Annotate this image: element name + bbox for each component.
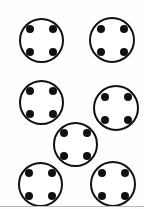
button-hole xyxy=(120,25,128,33)
button-hole xyxy=(121,192,129,200)
button-hole xyxy=(83,129,91,137)
button-hole xyxy=(121,169,129,177)
buttons-illustration xyxy=(0,0,144,209)
button-hole xyxy=(49,110,57,118)
button-middle-left xyxy=(19,80,64,125)
button-hole xyxy=(25,169,33,177)
button-bottom-left xyxy=(18,162,63,207)
button-hole xyxy=(49,87,57,95)
button-hole xyxy=(25,192,33,200)
button-hole xyxy=(101,93,109,101)
button-hole xyxy=(98,169,106,177)
button-hole xyxy=(60,129,68,137)
button-top-left xyxy=(19,18,64,63)
button-hole xyxy=(26,25,34,33)
button-hole xyxy=(124,93,132,101)
bottom-divider-line xyxy=(0,206,144,207)
button-hole xyxy=(26,87,34,95)
button-hole xyxy=(97,48,105,56)
button-hole xyxy=(49,48,57,56)
button-hole xyxy=(26,110,34,118)
button-hole xyxy=(101,116,109,124)
button-hole xyxy=(48,169,56,177)
button-hole xyxy=(83,152,91,160)
button-center xyxy=(53,122,98,167)
button-top-right xyxy=(89,17,135,63)
button-hole xyxy=(48,192,56,200)
button-hole xyxy=(124,116,132,124)
button-hole xyxy=(49,25,57,33)
button-bottom-right xyxy=(90,161,136,207)
button-hole xyxy=(97,25,105,33)
button-hole xyxy=(26,48,34,56)
button-hole xyxy=(98,192,106,200)
button-hole xyxy=(60,152,68,160)
button-hole xyxy=(120,48,128,56)
button-middle-right xyxy=(93,85,139,131)
